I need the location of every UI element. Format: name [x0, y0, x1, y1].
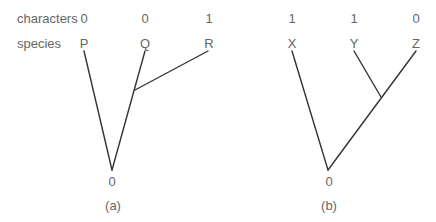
tree-a-branch-r: [135, 51, 208, 90]
phylogeny-lines: [0, 0, 436, 222]
tree-a-branch-p: [84, 51, 112, 170]
tree-b-branch-y: [354, 51, 381, 97]
tree-b-branch-z: [328, 51, 416, 170]
tree-b-branch-x: [292, 51, 328, 170]
tree-a-branch-q: [112, 51, 145, 170]
